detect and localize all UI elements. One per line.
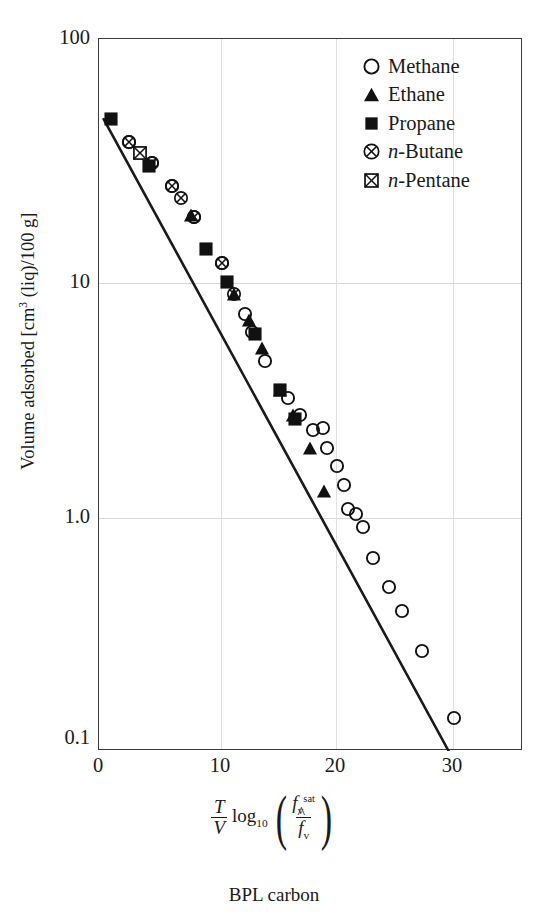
y-axis-title-exponent: 3 [17,302,29,308]
formula-paren-close: ) [321,790,332,845]
legend-label: n-Pentane [384,169,470,192]
legend-marker-open-circle-icon [358,58,384,75]
legend-item-propane[interactable]: Propane [358,109,470,138]
data-point-n-butane [215,255,230,274]
formula-numerator-T: T [212,797,227,816]
y-axis-title-head: Volume adsorbed [cm [18,308,38,470]
xtick-label-20: 20 [305,754,365,777]
xtick-label-10: 10 [190,754,250,777]
formula-fugacity-ratio: fvsat ^fv [290,793,317,841]
data-point-methane [330,459,345,478]
data-point-ethane [183,207,199,227]
legend-item-n-butane[interactable]: n-Butane [358,138,470,167]
legend-marker-filled-triangle-icon [358,86,384,103]
ytick-label-100: 100 [4,26,90,49]
data-point-propane [287,411,303,431]
formula-denominator-V: V [211,817,227,837]
data-point-methane [382,580,397,599]
hat-accent: ^ [298,805,306,821]
formula-fhat: ^fv [296,817,311,841]
data-point-methane [366,550,381,569]
legend-label: Methane [384,55,460,78]
legend-marker-circle-x-icon [358,143,384,160]
chart-figure: 100 10 1.0 0.1 0 10 20 30 Volume adsorbe… [0,0,548,924]
legend-item-methane[interactable]: Methane [358,52,470,81]
data-point-propane [219,274,235,294]
data-point-methane [395,604,410,623]
data-point-propane [103,111,119,131]
formula-fraction-T-over-V: T V [211,797,227,837]
y-axis-title: Volume adsorbed [cm3 (liq)/100 g] [17,61,39,621]
data-point-propane [198,241,214,261]
formula-paren-open: ( [275,790,286,845]
data-point-methane [319,441,334,460]
data-point-methane [355,520,370,539]
legend-label: n-Butane [384,140,463,163]
x-axis-formula: T V log10 ( fvsat ^fv ) [211,790,336,845]
x-axis-title: T V log10 ( fvsat ^fv ) [0,790,548,845]
formula-log: log10 [232,805,268,829]
legend-item-ethane[interactable]: Ethane [358,81,470,110]
legend-label: Propane [384,112,455,135]
data-point-methane [316,421,331,440]
xtick-label-0: 0 [68,754,128,777]
xtick-label-30: 30 [422,754,482,777]
data-point-methane [447,711,462,730]
data-point-propane [247,326,263,346]
data-point-methane [337,477,352,496]
data-point-ethane [302,440,318,460]
legend: MethaneEthanePropanen-Butanen-Pentane [358,52,470,195]
legend-item-n-pentane[interactable]: n-Pentane [358,166,470,195]
legend-label: Ethane [384,83,445,106]
data-point-propane [272,382,288,402]
legend-marker-filled-square-icon [358,116,384,131]
data-point-ethane [316,483,332,503]
ytick-label-0.1: 0.1 [4,726,90,749]
y-axis-title-tail: (liq)/100 g] [18,213,38,302]
legend-marker-square-x-icon [358,172,384,189]
data-point-propane [141,158,157,178]
data-point-methane [414,643,429,662]
figure-caption: BPL carbon [0,884,548,906]
